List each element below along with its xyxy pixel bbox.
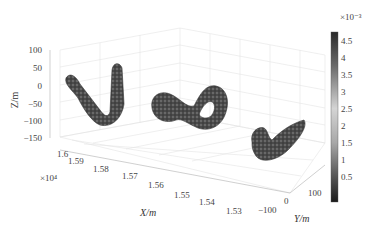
svg-text:1.57: 1.57	[122, 171, 138, 181]
svg-text:1.59: 1.59	[68, 156, 84, 166]
structure-2	[152, 86, 228, 129]
svg-text:1.58: 1.58	[93, 164, 109, 174]
svg-text:1.6: 1.6	[57, 149, 69, 159]
x-axis-exponent: ×10⁴	[40, 173, 57, 183]
svg-text:1.56: 1.56	[148, 180, 164, 190]
svg-text:50: 50	[33, 63, 43, 73]
svg-text:3.5: 3.5	[341, 70, 353, 80]
svg-text:0.5: 0.5	[341, 172, 353, 182]
svg-text:−100: −100	[258, 205, 277, 215]
svg-text:1.55: 1.55	[174, 190, 190, 200]
svg-text:0: 0	[284, 196, 289, 206]
3d-scatter-chart: 100 50 0 −50 −100 −150 Z/m 1.6 1.59 1.58…	[0, 0, 373, 236]
svg-text:1.53: 1.53	[226, 206, 242, 216]
z-axis-label: Z/m	[9, 91, 20, 108]
colorbar: ×10⁻³ 4.5 4 3.5 3 2.5 2 1.5 1 0.5	[331, 12, 362, 202]
y-axis-ticks: −100 0 100	[258, 188, 322, 215]
y-axis-label: Y/m	[294, 213, 310, 224]
svg-text:−50: −50	[28, 99, 43, 109]
svg-text:4: 4	[341, 53, 346, 63]
svg-text:100: 100	[308, 188, 322, 198]
svg-text:1: 1	[341, 155, 346, 165]
svg-text:0: 0	[38, 81, 43, 91]
structure-1	[66, 64, 124, 126]
svg-text:100: 100	[29, 45, 43, 55]
x-axis-label: X/m	[139, 207, 156, 218]
z-axis-ticks: 100 50 0 −50 −100 −150	[23, 45, 42, 143]
svg-text:4.5: 4.5	[341, 36, 353, 46]
colorbar-exponent: ×10⁻³	[340, 12, 362, 22]
svg-text:3: 3	[341, 87, 346, 97]
svg-text:2.5: 2.5	[341, 104, 353, 114]
svg-text:1.5: 1.5	[341, 138, 353, 148]
svg-text:−100: −100	[23, 116, 42, 126]
svg-text:2: 2	[341, 121, 346, 131]
svg-text:1.54: 1.54	[199, 197, 215, 207]
structure-3	[252, 120, 305, 160]
svg-text:−150: −150	[23, 133, 42, 143]
